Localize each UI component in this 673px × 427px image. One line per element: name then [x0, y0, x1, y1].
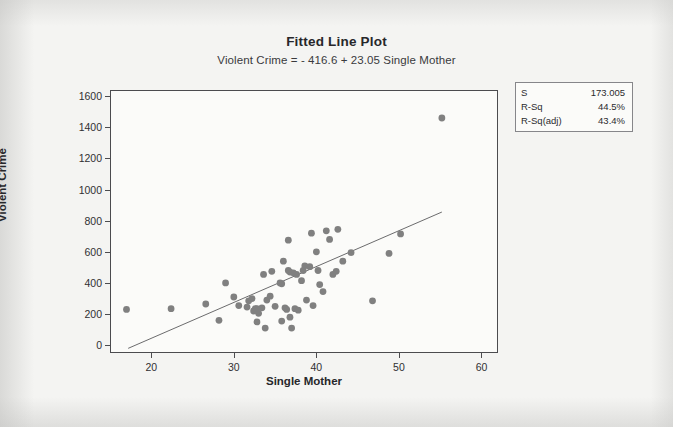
scatter-point: [278, 280, 285, 287]
y-tick-label: 600: [56, 246, 102, 258]
scatter-point: [306, 263, 313, 270]
scatter-point: [260, 271, 267, 278]
scatter-point: [326, 236, 333, 243]
scatter-point: [295, 307, 302, 314]
scatter-point: [288, 325, 295, 332]
regression-line-path: [128, 212, 442, 348]
fitted-line-plot-figure: Fitted Line Plot Violent Crime = - 416.6…: [0, 0, 673, 427]
chart-subtitle-equation: Violent Crime = - 416.6 + 23.05 Single M…: [0, 54, 673, 66]
stats-value-s: 173.005: [591, 86, 625, 100]
scatter-point: [254, 318, 261, 325]
scatter-point: [438, 115, 445, 122]
y-tick-label: 0: [56, 339, 102, 351]
scatter-point: [320, 288, 327, 295]
stats-value-rsq: 44.5%: [598, 100, 625, 114]
scatter-point: [249, 295, 256, 302]
scatter-point: [283, 306, 290, 313]
scatter-point: [285, 237, 292, 244]
x-tick-mark: [399, 353, 400, 358]
x-tick-mark: [151, 353, 152, 358]
scatter-point: [168, 305, 175, 312]
regression-stats-box: S 173.005 R-Sq 44.5% R-Sq(adj) 43.4%: [515, 82, 633, 132]
scatter-point: [272, 303, 279, 310]
scatter-point: [222, 280, 229, 287]
y-tick-label: 400: [56, 277, 102, 289]
stats-row-s: S 173.005: [521, 86, 627, 100]
y-axis-label: Violent Crime: [0, 148, 8, 222]
scatter-point: [267, 293, 274, 300]
y-tick-label: 1200: [56, 152, 102, 164]
scatter-point: [268, 268, 275, 275]
scatter-point: [333, 268, 340, 275]
y-tick-label: 800: [56, 215, 102, 227]
scatter-points: [123, 115, 445, 332]
scatter-point: [202, 301, 209, 308]
x-tick-label: 20: [131, 361, 171, 373]
x-tick-mark: [234, 353, 235, 358]
scatter-point: [216, 317, 223, 324]
scatter-point: [280, 258, 287, 265]
stats-row-rsq: R-Sq 44.5%: [521, 100, 627, 114]
scatter-point: [397, 231, 404, 238]
y-tick-label: 1600: [56, 90, 102, 102]
x-axis-label: Single Mother: [110, 375, 498, 387]
regression-line: [128, 212, 442, 348]
scatter-point: [287, 314, 294, 321]
x-tick-label: 40: [296, 361, 336, 373]
scatter-point: [262, 325, 269, 332]
y-tick-label: 1000: [56, 184, 102, 196]
x-tick-mark: [316, 353, 317, 358]
scatter-point: [348, 249, 355, 256]
y-tick-label: 1400: [56, 121, 102, 133]
scatter-point: [323, 227, 330, 234]
stats-value-rsq-adj: 43.4%: [598, 114, 625, 128]
scatter-point: [293, 271, 300, 278]
scatter-point: [258, 304, 265, 311]
scatter-point: [230, 294, 237, 301]
chart-title: Fitted Line Plot: [0, 34, 673, 49]
stats-label-rsq: R-Sq: [521, 100, 543, 114]
x-tick-mark: [481, 353, 482, 358]
scatter-point: [123, 306, 130, 313]
stats-label-rsq-adj: R-Sq(adj): [521, 114, 562, 128]
scatter-point: [369, 297, 376, 304]
scatter-point: [315, 267, 322, 274]
scatter-point: [278, 318, 285, 325]
scatter-point: [298, 277, 305, 284]
scatter-point: [334, 226, 341, 233]
scatter-point: [316, 281, 323, 288]
scatter-point: [303, 297, 310, 304]
scatter-point: [244, 304, 251, 311]
x-tick-label: 30: [214, 361, 254, 373]
stats-row-rsq-adj: R-Sq(adj) 43.4%: [521, 114, 627, 128]
scatter-point: [308, 230, 315, 237]
scatter-point: [235, 302, 242, 309]
y-tick-label: 200: [56, 308, 102, 320]
stats-label-s: S: [521, 86, 527, 100]
plot-canvas: [110, 90, 498, 353]
scatter-point: [386, 250, 393, 257]
scatter-point: [313, 248, 320, 255]
scatter-point: [310, 302, 317, 309]
x-tick-label: 50: [379, 361, 419, 373]
scatter-point: [339, 258, 346, 265]
x-tick-label: 60: [461, 361, 501, 373]
